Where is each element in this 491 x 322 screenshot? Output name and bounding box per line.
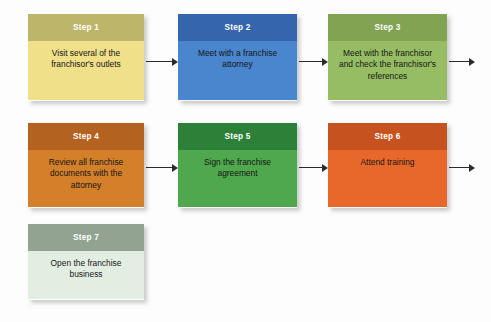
arrow-1-to-2-head: [172, 58, 178, 66]
step-7-header: Step 7: [28, 224, 144, 251]
step-1-box: Step 1Visit several of the franchisor's …: [28, 14, 144, 101]
step-5-header: Step 5: [178, 123, 297, 150]
flowchart-canvas: Step 1Visit several of the franchisor's …: [0, 0, 491, 322]
arrow-4-to-5-arrow-icon: [146, 163, 178, 172]
arrow-6-to-next-line: [449, 167, 469, 168]
arrow-2-to-3-arrow-icon: [299, 57, 328, 66]
arrow-6-to-next-arrow-icon: [449, 163, 475, 172]
step-2-box: Step 2Meet with a franchise attorney: [178, 14, 297, 101]
arrow-3-to-next-line: [449, 61, 469, 62]
arrow-2-to-3-head: [322, 58, 328, 66]
arrow-6-to-next-head: [469, 164, 475, 172]
step-3-header: Step 3: [328, 14, 447, 41]
step-6-header: Step 6: [328, 123, 447, 150]
step-4-box: Step 4Review all franchise documents wit…: [28, 123, 144, 208]
arrow-4-to-5-line: [146, 167, 172, 168]
step-5-box: Step 5Sign the franchise agreement: [178, 123, 297, 208]
step-6-body: Attend training: [328, 150, 447, 207]
step-6-box: Step 6Attend training: [328, 123, 447, 208]
arrow-3-to-next-head: [469, 58, 475, 66]
step-3-body: Meet with the franchisor and check the f…: [328, 41, 447, 100]
step-1-body: Visit several of the franchisor's outlet…: [28, 41, 144, 100]
step-4-header: Step 4: [28, 123, 144, 150]
step-7-body: Open the franchise business: [28, 251, 144, 299]
arrow-4-to-5-head: [172, 164, 178, 172]
step-2-body: Meet with a franchise attorney: [178, 41, 297, 100]
step-4-body: Review all franchise documents with the …: [28, 150, 144, 207]
arrow-3-to-next-arrow-icon: [449, 57, 475, 66]
step-5-body: Sign the franchise agreement: [178, 150, 297, 207]
step-3-box: Step 3Meet with the franchisor and check…: [328, 14, 447, 101]
arrow-5-to-6-line: [299, 167, 322, 168]
arrow-1-to-2-arrow-icon: [146, 57, 178, 66]
step-1-header: Step 1: [28, 14, 144, 41]
arrow-1-to-2-line: [146, 61, 172, 62]
step-2-header: Step 2: [178, 14, 297, 41]
step-7-box: Step 7Open the franchise business: [28, 224, 144, 300]
arrow-5-to-6-head: [322, 164, 328, 172]
arrow-2-to-3-line: [299, 61, 322, 62]
arrow-5-to-6-arrow-icon: [299, 163, 328, 172]
